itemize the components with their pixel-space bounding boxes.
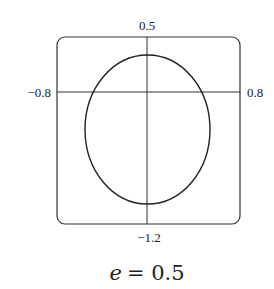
caption-variable: e [109,261,121,285]
x-max-label: 0.8 [247,85,263,100]
caption-value: = 0.5 [127,261,185,285]
conic-plot: 0.5 −0.8 0.8 −1.2 e= 0.5 [0,0,274,289]
x-min-label: −0.8 [27,85,51,100]
y-max-label: 0.5 [139,18,155,33]
caption: e= 0.5 [109,261,184,285]
y-min-label: −1.2 [137,230,161,245]
